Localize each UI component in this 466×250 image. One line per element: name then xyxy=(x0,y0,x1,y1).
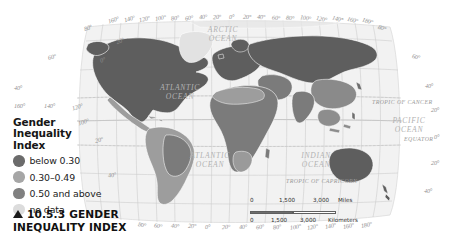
arctic-ocean-label: ARCTIC OCEAN xyxy=(200,26,246,43)
legend-label-030-049: 0.30–0.49 xyxy=(30,172,76,183)
lon-top-0: 0° xyxy=(229,14,234,20)
land-madagascar xyxy=(265,148,270,159)
lon-top-40w: 40° xyxy=(199,14,207,21)
figure-page: ARCTIC OCEAN ATLANTIC OCEAN ATLANTIC OCE… xyxy=(0,0,466,250)
scalebar-kilometers-row: 0 1,500 3,000 Kilometers xyxy=(250,216,364,227)
scalebar-bar xyxy=(250,211,336,214)
caption-number: 10.5.3 xyxy=(27,208,65,221)
scalebar-km-unit: Kilometers xyxy=(328,217,358,223)
legend-swatch-030-049 xyxy=(13,171,25,183)
scalebar-miles-tick-0: 0 xyxy=(250,197,254,203)
map-scalebar: 0 1,500 3,000 Miles 0 1,500 3,000 Kilome… xyxy=(250,196,364,227)
legend-item-050-above[interactable]: 0.50 and above xyxy=(13,187,133,200)
atlantic-ocean-north-label: ATLANTIC OCEAN xyxy=(155,84,205,101)
legend-item-below-030[interactable]: below 0.30 xyxy=(13,154,133,167)
scalebar-segment-2 xyxy=(293,211,336,214)
lat-right-20s: 20° xyxy=(431,160,439,166)
lon-bottom-20e: 20° xyxy=(222,224,230,231)
scalebar-km-tick-3000: 3,000 xyxy=(300,217,316,223)
caption-title-line1: GENDER xyxy=(69,208,119,221)
scalebar-segment-1 xyxy=(250,211,293,214)
scalebar-miles-row: 0 1,500 3,000 Miles xyxy=(250,196,364,207)
legend-label-050-above: 0.50 and above xyxy=(30,188,102,199)
tropic-of-capricorn-label: TROPIC OF CAPRICORN xyxy=(286,178,357,184)
indian-ocean-label: INDIAN OCEAN xyxy=(292,152,340,169)
lon-top-60w: 60° xyxy=(185,15,194,22)
lat-right-40n: 40° xyxy=(425,83,433,89)
legend-item-030-049[interactable]: 0.30–0.49 xyxy=(13,171,133,184)
lat-right-60n: 60° xyxy=(411,53,420,61)
lat-right-20n: 20° xyxy=(431,107,439,113)
figure-caption: 10.5.3 GENDER INEQUALITY INDEX xyxy=(13,208,223,233)
lon-top-60e: 60° xyxy=(272,15,281,22)
lat-right-0: 0° xyxy=(434,134,439,140)
lat-right-40s: 40° xyxy=(424,188,432,194)
lat-left-40n: 40° xyxy=(14,85,22,91)
scalebar-miles-tick-1500: 1,500 xyxy=(279,197,295,203)
scalebar-miles-tick-3000: 3,000 xyxy=(313,197,329,203)
legend-swatch-050-above xyxy=(13,188,25,200)
lon-top-40e: 40° xyxy=(257,14,265,21)
pacific-ocean-label: PACIFIC OCEAN xyxy=(385,117,433,134)
lon-top-80e: 80° xyxy=(286,14,295,21)
scalebar-km-tick-1500: 1,500 xyxy=(271,217,287,223)
atlantic-ocean-south-label: ATLANTIC OCEAN xyxy=(185,152,235,169)
legend-swatch-below-030 xyxy=(13,155,25,167)
lon-top-20e: 20° xyxy=(243,14,251,20)
equator-label: EQUATOR xyxy=(404,136,433,142)
lon-top-20w: 20° xyxy=(213,14,221,20)
triangle-up-icon xyxy=(13,210,23,218)
lat-left-lower-140: 140° xyxy=(44,103,55,109)
caption-title-line2: INEQUALITY INDEX xyxy=(13,221,223,234)
scalebar-km-tick-0: 0 xyxy=(250,217,254,223)
legend-title: Gender Inequality Index xyxy=(13,117,133,151)
lon-top-80w: 80° xyxy=(171,14,180,21)
lat-left-lower-160: 160° xyxy=(14,103,25,109)
legend-label-below-030: below 0.30 xyxy=(30,155,81,166)
map-legend: Gender Inequality Index below 0.30 0.30–… xyxy=(13,117,133,216)
lon-bottom-40e: 40° xyxy=(239,224,248,231)
tropic-of-cancer-label: TROPIC OF CANCER xyxy=(372,99,432,105)
scalebar-miles-unit: Miles xyxy=(338,197,352,203)
scalebar-bar-graphic xyxy=(250,207,364,216)
